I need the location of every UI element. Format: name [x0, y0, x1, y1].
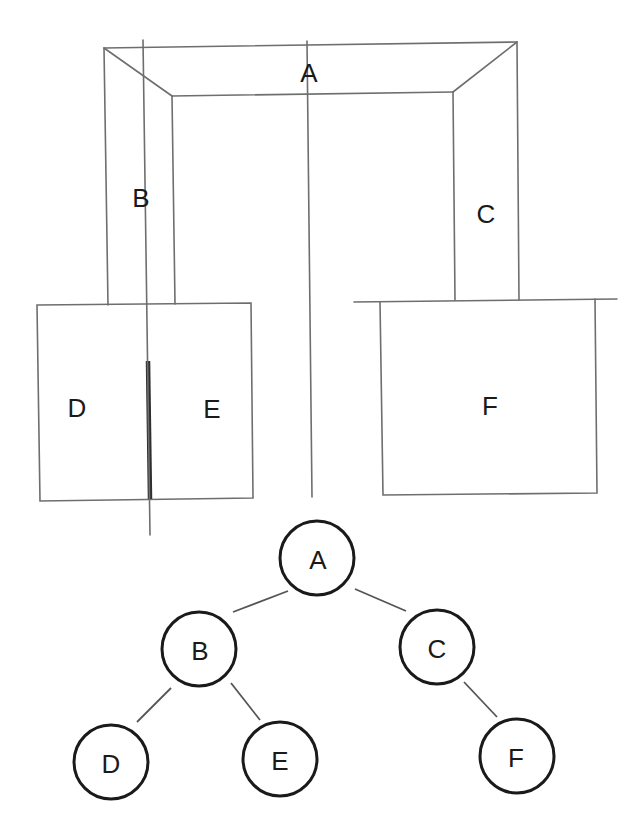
- region-c-leg: [453, 42, 519, 300]
- tree-node-e: E: [243, 722, 317, 796]
- tree-node-label: F: [508, 743, 524, 773]
- tree-node-label: B: [191, 636, 208, 666]
- tree-node-label: D: [102, 749, 121, 779]
- tree-node-b: B: [162, 612, 236, 686]
- region-label-d: D: [68, 393, 87, 423]
- tree-node-c: C: [400, 610, 474, 684]
- cut-line-vertical-a: [307, 41, 312, 497]
- tree-node-label: C: [428, 634, 447, 664]
- tree-edge-a-b: [233, 591, 288, 612]
- left-miter-edge: [104, 48, 172, 96]
- tree-edge-b-e: [231, 683, 260, 720]
- tree-node-a: A: [280, 521, 354, 595]
- tree-edge-c-f: [464, 682, 497, 717]
- region-label-f: F: [482, 391, 498, 421]
- inner-top-edge: [172, 92, 453, 96]
- region-label-c: C: [477, 199, 496, 229]
- tree-edge-b-d: [137, 688, 171, 722]
- cut-line-vertical-b: [143, 40, 150, 535]
- right-box-top-line: [354, 299, 617, 302]
- right-leg-outer-edge: [517, 42, 519, 300]
- tree-node-label: E: [271, 746, 288, 776]
- region-label-b: B: [132, 183, 149, 213]
- right-leg-inner-edge: [453, 92, 455, 300]
- tree-node-label: A: [309, 545, 327, 575]
- tree-node-f: F: [480, 719, 554, 793]
- outer-top-edge: [104, 42, 517, 48]
- partition-diagram: A B C D E F A B C D E F: [0, 0, 640, 838]
- region-b-leg: [104, 48, 175, 305]
- tree-node-d: D: [74, 725, 148, 799]
- region-label-e: E: [203, 394, 220, 424]
- right-miter-edge: [453, 42, 517, 92]
- region-label-a: A: [300, 58, 318, 88]
- left-leg-outer-edge: [104, 48, 108, 305]
- tree-edge-a-c: [355, 589, 406, 611]
- left-leg-inner-edge: [172, 96, 175, 304]
